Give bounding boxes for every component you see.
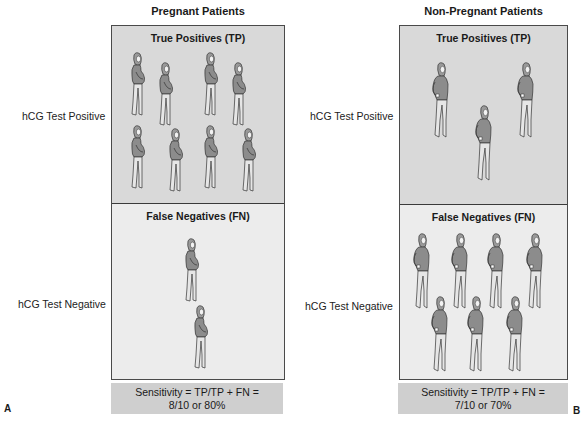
non-pregnant-woman-figure-icon [464, 296, 488, 378]
pregnant-woman-figure-icon [200, 52, 222, 122]
pregnant-woman-figure-icon [228, 62, 250, 132]
pregnant-woman-figure-icon [238, 128, 260, 198]
panel-b-sensitivity-box: Sensitivity = TP/TP + FN = 7/10 or 70% [398, 383, 568, 414]
non-pregnant-woman-figure-icon [429, 62, 453, 144]
pregnant-woman-figure-icon [165, 128, 187, 198]
non-pregnant-woman-figure-icon [503, 296, 527, 378]
pregnant-woman-figure-icon [190, 305, 212, 375]
panel-b-fn-row-label: hCG Test Negative [305, 300, 393, 312]
panel-b-fn-title: False Negatives (FN) [400, 211, 567, 223]
panel-b-tp-row-label: hCG Test Positive [310, 110, 393, 122]
panel-a-sensitivity-box: Sensitivity = TP/TP + FN = 8/10 or 80% [111, 383, 283, 414]
panel-a-sensitivity-formula: Sensitivity = TP/TP + FN = [111, 386, 283, 399]
non-pregnant-woman-figure-icon [428, 296, 452, 378]
non-pregnant-woman-figure-icon [514, 62, 538, 144]
panel-b-tp-title: True Positives (TP) [400, 32, 567, 44]
pregnant-woman-figure-icon [200, 125, 222, 195]
pregnant-woman-figure-icon [181, 238, 203, 308]
panel-a-fn-row-label: hCG Test Negative [18, 298, 106, 310]
panel-a-title: Pregnant Patients [111, 5, 285, 17]
panel-a-fn-title: False Negatives (FN) [112, 210, 284, 222]
panel-a-sensitivity-value: 8/10 or 80% [111, 399, 283, 412]
panel-b-sensitivity-value: 7/10 or 70% [398, 399, 568, 412]
panel-b-letter: B [573, 405, 580, 416]
panel-b-sensitivity-formula: Sensitivity = TP/TP + FN = [398, 386, 568, 399]
pregnant-woman-figure-icon [127, 52, 149, 122]
pregnant-woman-figure-icon [155, 62, 177, 132]
non-pregnant-woman-figure-icon [472, 105, 496, 187]
panel-a-tp-row-label: hCG Test Positive [22, 110, 105, 122]
pregnant-woman-figure-icon [127, 125, 149, 195]
panel-a-letter: A [4, 403, 11, 414]
panel-b-title: Non-Pregnant Patients [399, 5, 568, 17]
panel-a-tp-title: True Positives (TP) [112, 32, 284, 44]
